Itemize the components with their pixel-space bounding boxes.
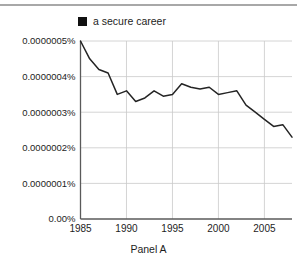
series-line-a-secure-career xyxy=(81,41,293,137)
y-tick-label: 0.0000002% xyxy=(22,142,76,153)
y-tick-label: 0.0000004% xyxy=(22,71,76,82)
x-tick-label: 1985 xyxy=(69,223,92,234)
y-tick-label: 0.0000001% xyxy=(22,178,76,189)
line-chart: 0.00%0.0000001%0.0000002%0.0000003%0.000… xyxy=(0,0,297,240)
x-tick-label: 1995 xyxy=(161,223,184,234)
y-tick-label: 0.0000005% xyxy=(22,35,76,46)
panel-title: Panel A xyxy=(0,243,297,255)
x-tick-label: 1990 xyxy=(115,223,138,234)
y-tick-label: 0.0000003% xyxy=(22,107,76,118)
figure-panel-a: a secure career 0.00%0.0000001%0.0000002… xyxy=(0,0,297,274)
x-tick-label: 2005 xyxy=(253,223,276,234)
plot-area: 0.00%0.0000001%0.0000002%0.0000003%0.000… xyxy=(0,0,297,240)
x-tick-label: 2000 xyxy=(207,223,230,234)
